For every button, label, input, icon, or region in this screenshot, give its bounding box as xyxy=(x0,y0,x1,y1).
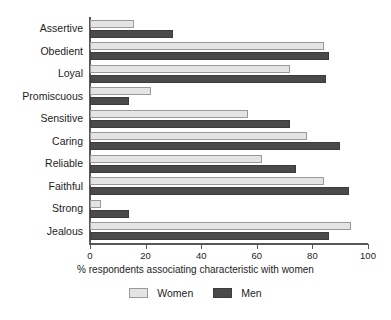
bar-women-strong xyxy=(90,200,101,208)
category-label-loyal: Loyal xyxy=(58,67,83,79)
category-label-caring: Caring xyxy=(52,135,83,147)
bar-women-caring xyxy=(90,132,307,140)
category-label-obedient: Obedient xyxy=(40,45,83,57)
bar-men-faithful xyxy=(90,187,349,195)
chart-legend: Women Men xyxy=(0,287,391,299)
x-axis-tick xyxy=(312,244,313,249)
x-axis-label: % respondents associating characteristic… xyxy=(0,264,391,275)
bar-women-obedient xyxy=(90,42,324,50)
bar-women-sensitive xyxy=(90,110,248,118)
x-axis-tick xyxy=(201,244,202,249)
bar-women-assertive xyxy=(90,20,134,28)
bar-men-promiscuous xyxy=(90,97,129,105)
legend-item-men: Men xyxy=(213,287,261,299)
legend-label-men: Men xyxy=(241,287,261,299)
bar-women-jealous xyxy=(90,222,351,230)
x-axis-tick-label: 100 xyxy=(360,250,376,261)
bar-men-jealous xyxy=(90,232,329,240)
chart-row: Faithful xyxy=(0,176,391,199)
x-axis-tick-label: 40 xyxy=(196,250,207,261)
bar-women-promiscuous xyxy=(90,87,151,95)
category-label-jealous: Jealous xyxy=(47,225,83,237)
bar-men-sensitive xyxy=(90,120,290,128)
bar-men-strong xyxy=(90,210,129,218)
bar-women-faithful xyxy=(90,177,324,185)
x-axis-tick xyxy=(146,244,147,249)
chart-row: Reliable xyxy=(0,153,391,176)
x-axis-tick xyxy=(368,244,369,249)
category-label-sensitive: Sensitive xyxy=(40,112,83,124)
chart-row: Obedient xyxy=(0,41,391,64)
x-axis-line xyxy=(89,243,368,245)
x-axis-tick xyxy=(90,244,91,249)
light-swatch-icon xyxy=(129,288,148,298)
legend-label-women: Women xyxy=(157,287,193,299)
category-label-strong: Strong xyxy=(52,202,83,214)
category-label-assertive: Assertive xyxy=(40,22,83,34)
bar-men-assertive xyxy=(90,30,173,38)
chart-row: Caring xyxy=(0,131,391,154)
bar-women-loyal xyxy=(90,65,290,73)
x-axis-tick-label: 20 xyxy=(140,250,151,261)
bar-women-reliable xyxy=(90,155,262,163)
x-axis-tick-label: 0 xyxy=(87,250,92,261)
chart-row: Sensitive xyxy=(0,108,391,131)
chart-row: Assertive xyxy=(0,18,391,41)
x-axis-tick xyxy=(257,244,258,249)
chart-row: Strong xyxy=(0,198,391,221)
chart-row: Jealous xyxy=(0,221,391,244)
category-label-reliable: Reliable xyxy=(45,157,83,169)
legend-item-women: Women xyxy=(129,287,193,299)
dark-swatch-icon xyxy=(213,288,232,298)
x-axis-tick-label: 60 xyxy=(252,250,263,261)
chart-row: Loyal xyxy=(0,63,391,86)
bar-men-loyal xyxy=(90,75,326,83)
bar-chart: AssertiveObedientLoyalPromiscuousSensiti… xyxy=(0,0,391,320)
bar-men-caring xyxy=(90,142,340,150)
bar-men-reliable xyxy=(90,165,296,173)
x-axis-tick-label: 80 xyxy=(307,250,318,261)
category-label-promiscuous: Promiscuous xyxy=(22,90,83,102)
bar-men-obedient xyxy=(90,52,329,60)
chart-row: Promiscuous xyxy=(0,86,391,109)
category-label-faithful: Faithful xyxy=(49,180,83,192)
